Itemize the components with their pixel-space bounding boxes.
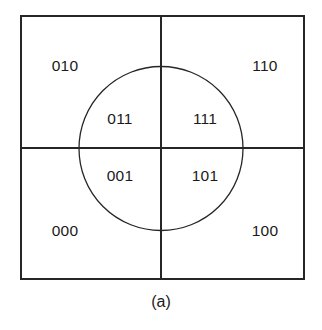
region-label-inner-bottom-right: 101 [192,167,218,184]
region-label-outer-bottom-left: 000 [52,222,79,239]
figure-caption: (a) [151,293,171,310]
region-label-outer-top-right: 110 [252,57,277,74]
venn-figure: 010 110 011 111 001 101 000 100 (a) [0,0,322,330]
region-label-outer-bottom-right: 100 [252,222,279,239]
region-label-inner-top-right: 111 [193,110,217,127]
region-label-inner-top-left: 011 [107,110,132,127]
venn-diagram-canvas: 010 110 011 111 001 101 000 100 (a) [0,0,322,330]
region-label-outer-top-left: 010 [52,57,79,74]
region-label-inner-bottom-left: 001 [107,167,133,184]
